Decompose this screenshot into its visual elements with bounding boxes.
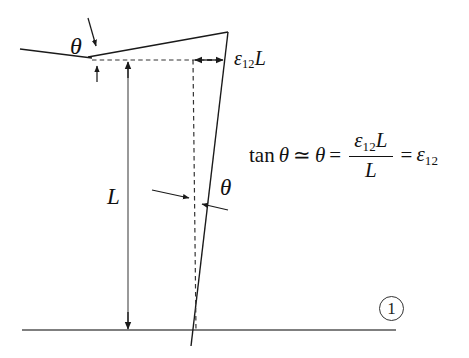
vertical-reference-dashed bbox=[193, 60, 196, 332]
deformed-side-edge bbox=[191, 32, 228, 346]
theta-bottom-left-arrow bbox=[152, 190, 189, 198]
deformed-top-edge bbox=[88, 32, 228, 57]
undeformed-top-edge bbox=[20, 49, 92, 58]
diagram-vector-layer bbox=[0, 0, 469, 358]
figure-canvas: θ L θ ε12L tan θ ≃ θ = ε12L L = ε12 1 bbox=[0, 0, 469, 358]
theta-top-upper-arrow bbox=[88, 18, 96, 46]
theta-bottom-right-arrow bbox=[202, 204, 228, 210]
